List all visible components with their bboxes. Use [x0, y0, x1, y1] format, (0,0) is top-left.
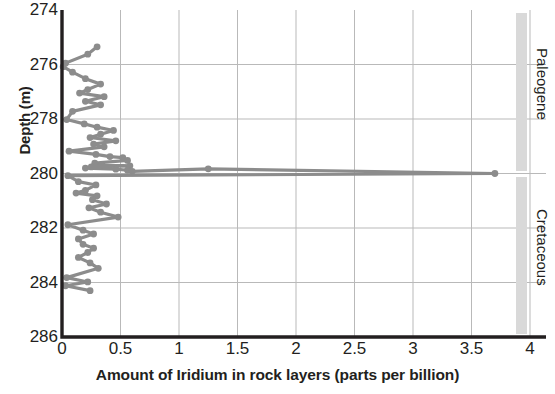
- data-point: [81, 121, 88, 128]
- data-point: [69, 108, 76, 115]
- iridium-depth-chart: Depth (m) 274276278280282284286 00.511.5…: [0, 0, 555, 394]
- data-point: [97, 101, 104, 108]
- data-point: [97, 209, 104, 216]
- data-point: [97, 131, 104, 138]
- data-point: [88, 164, 95, 171]
- data-point: [101, 143, 108, 150]
- data-point: [82, 75, 89, 82]
- x-tick-label: 2.5: [325, 340, 385, 357]
- data-point: [93, 182, 100, 189]
- data-point: [129, 168, 136, 175]
- data-point: [63, 274, 70, 281]
- data-point: [84, 249, 91, 256]
- x-tick-label: 4: [500, 340, 555, 357]
- x-tick-label: 0: [32, 340, 92, 357]
- x-tick-label: 1: [149, 340, 209, 357]
- x-tick-label: 3.5: [442, 340, 502, 357]
- data-point: [94, 124, 101, 131]
- data-point: [90, 245, 97, 252]
- data-point: [63, 116, 70, 123]
- data-point: [64, 221, 71, 228]
- data-point: [93, 151, 100, 158]
- data-point: [87, 287, 94, 294]
- data-point: [69, 69, 76, 76]
- data-point: [66, 148, 73, 155]
- x-axis-tick-labels: 00.511.522.533.54: [0, 340, 555, 366]
- data-point: [87, 134, 94, 141]
- era-label-paleogene: Paleogene: [534, 48, 551, 120]
- era-band-paleogene: [516, 13, 527, 172]
- data-point: [76, 90, 83, 97]
- x-tick-label: 1.5: [208, 340, 268, 357]
- era-band-cretaceous: [516, 177, 527, 335]
- era-label-cretaceous: Cretaceous: [534, 209, 551, 286]
- data-point: [95, 265, 102, 272]
- data-point: [94, 43, 101, 50]
- data-point: [84, 86, 91, 93]
- data-point: [64, 172, 71, 179]
- data-point: [82, 98, 89, 105]
- data-point: [90, 231, 97, 238]
- data-point: [84, 279, 91, 286]
- data-point: [97, 81, 104, 88]
- data-point: [205, 165, 212, 172]
- data-point: [82, 187, 89, 194]
- plot-area: [0, 0, 555, 394]
- x-tick-label: 0.5: [91, 340, 151, 357]
- data-point: [73, 190, 80, 197]
- data-point: [82, 165, 89, 172]
- x-axis-title: Amount of Iridium in rock layers (parts …: [0, 366, 555, 384]
- data-point: [86, 204, 93, 211]
- data-point: [98, 161, 105, 168]
- data-point: [103, 201, 110, 208]
- data-point: [101, 93, 108, 100]
- data-point: [75, 178, 82, 185]
- data-point: [115, 214, 122, 221]
- data-point: [87, 259, 94, 266]
- data-point: [80, 227, 87, 234]
- data-point: [112, 137, 119, 144]
- x-tick-label: 3: [383, 340, 443, 357]
- data-point: [107, 153, 114, 160]
- data-point: [80, 241, 87, 248]
- data-point: [89, 196, 96, 203]
- data-point: [90, 141, 97, 148]
- data-point: [110, 127, 117, 134]
- data-point: [112, 166, 119, 173]
- data-point: [75, 254, 82, 261]
- x-tick-label: 2: [266, 340, 326, 357]
- data-point: [75, 236, 82, 243]
- data-point: [84, 51, 91, 58]
- data-point: [492, 170, 499, 177]
